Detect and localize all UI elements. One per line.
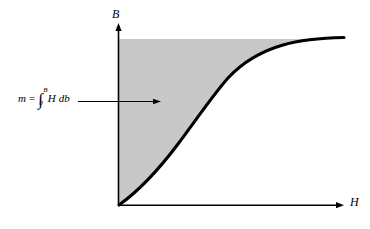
x-axis-arrowhead (336, 202, 344, 208)
integral-annotation: m = ∫ B 0 H db (18, 90, 70, 107)
integral-upper-limit: B (43, 87, 47, 94)
figure-container: B H m = ∫ B 0 H db (0, 0, 370, 229)
bh-curve-figure (0, 0, 370, 229)
integral-differential: db (59, 93, 70, 104)
integral-lower-limit: 0 (39, 100, 43, 107)
shaded-area-region (119, 38, 345, 205)
integral-integrand: H (48, 93, 56, 104)
x-axis-label: H (350, 196, 359, 208)
integral-group: ∫ B 0 (38, 90, 43, 107)
annotation-lhs-variable: m (18, 93, 26, 104)
y-axis-label: B (112, 8, 119, 20)
annotation-equals-sign: = (29, 93, 35, 104)
y-axis-arrowhead (115, 23, 121, 31)
